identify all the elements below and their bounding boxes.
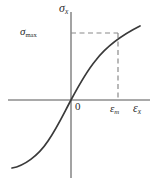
stress-strain-figure: σx σmax 0 εm εx — [0, 0, 158, 183]
sigma-max-subscript: max — [25, 31, 36, 38]
y-axis-subscript: x — [65, 7, 68, 16]
x-axis-subscript: x — [138, 107, 141, 116]
sigma-max-label: σmax — [20, 26, 37, 37]
y-axis-label: σx — [59, 2, 68, 14]
x-axis-label: εx — [133, 102, 141, 114]
stress-strain-curve — [12, 26, 140, 168]
origin-label: 0 — [75, 101, 81, 112]
epsilon-m-label: εm — [110, 103, 119, 114]
epsilon-m-subscript: m — [114, 108, 119, 115]
